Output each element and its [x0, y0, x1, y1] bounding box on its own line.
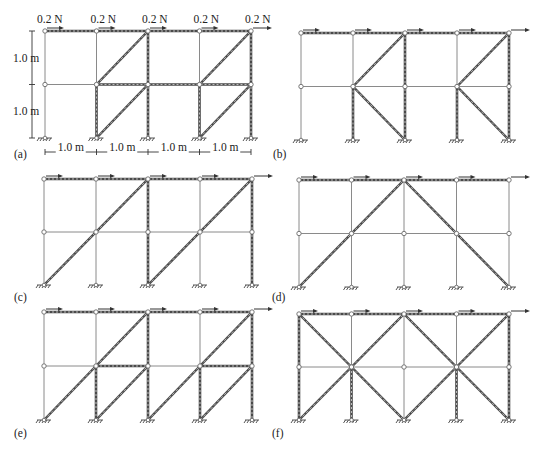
joint-node — [351, 31, 355, 35]
fixed-support-icon — [449, 418, 464, 423]
load-arrow-icon — [253, 26, 272, 30]
load-arrow-icon — [459, 175, 476, 179]
load-arrow-icon — [406, 175, 423, 179]
joint-node — [349, 365, 353, 369]
joint-node — [402, 312, 406, 316]
fixed-support-icon — [244, 418, 259, 423]
joint-node — [297, 178, 301, 182]
joint-node — [349, 231, 353, 235]
joint-node — [297, 365, 301, 369]
joint-node — [299, 84, 303, 88]
joint-node — [351, 84, 355, 88]
joint-node — [507, 178, 511, 182]
joint-node — [146, 230, 150, 234]
joint-node — [42, 177, 46, 181]
joint-node — [455, 31, 459, 35]
load-label: 0.2 N — [194, 13, 220, 25]
joint-node — [507, 231, 511, 235]
panel-c: (c) — [14, 174, 273, 304]
fixed-support-icon — [396, 418, 411, 423]
joint-node — [43, 82, 47, 86]
joint-node — [42, 230, 46, 234]
joint-node — [402, 365, 406, 369]
fixed-support-icon — [36, 418, 51, 423]
joint-node — [43, 29, 47, 33]
joint-node — [94, 29, 98, 33]
load-arrow-icon — [98, 307, 115, 311]
load-arrow-icon — [254, 174, 273, 178]
joint-node — [197, 82, 201, 86]
fixed-support-icon — [243, 136, 258, 141]
load-arrow-icon — [46, 174, 63, 178]
load-arrow-icon — [150, 26, 167, 30]
joint-node — [349, 178, 353, 182]
joint-node — [454, 178, 458, 182]
fixed-support-icon — [140, 418, 155, 423]
fixed-support-icon — [397, 138, 412, 143]
panel-e: (e) — [14, 307, 273, 440]
fixed-support-icon — [449, 138, 464, 143]
joint-node — [507, 31, 511, 35]
joint-node — [297, 312, 301, 316]
dimension-lines: 1.0 m1.0 m1.0 m1.0 m1.0 m1.0 m — [13, 31, 251, 155]
joint-node — [297, 231, 301, 235]
joint-node — [403, 31, 407, 35]
load-arrow-icon — [254, 307, 273, 311]
load-arrow-icon — [46, 307, 63, 311]
joint-node — [94, 364, 98, 368]
load-arrow-icon — [202, 26, 219, 30]
panel-b: (b) — [273, 28, 530, 161]
load-arrow-icon — [355, 28, 372, 32]
joint-node — [349, 312, 353, 316]
load-arrow-icon — [301, 309, 318, 313]
fixed-support-icon — [449, 285, 464, 290]
load-label: 0.2 N — [37, 13, 63, 25]
panel-label: (e) — [14, 427, 27, 440]
fixed-support-icon — [501, 418, 516, 423]
joint-node — [250, 230, 254, 234]
fixed-support-icon — [192, 136, 207, 141]
bay-width-label: 1.0 m — [109, 141, 135, 153]
fixed-support-icon — [293, 138, 308, 143]
load-arrow-icon — [511, 175, 530, 179]
joint-node — [94, 177, 98, 181]
joint-node — [507, 365, 511, 369]
joint-node — [455, 84, 459, 88]
load-arrow-icon — [354, 175, 371, 179]
panel-a: 0.2 N0.2 N0.2 N0.2 N0.2 N1.0 m1.0 m1.0 m… — [13, 13, 272, 161]
fixed-support-icon — [140, 283, 155, 288]
fixed-support-icon — [89, 136, 104, 141]
joint-node — [198, 310, 202, 314]
frame-bracing-diagram: 0.2 N0.2 N0.2 N0.2 N0.2 N1.0 m1.0 m1.0 m… — [0, 0, 537, 455]
joint-node — [507, 312, 511, 316]
fixed-support-icon — [140, 136, 155, 141]
load-arrow-icon — [354, 309, 371, 313]
load-arrow-icon — [202, 307, 219, 311]
fixed-support-icon — [344, 418, 359, 423]
joint-node — [454, 312, 458, 316]
load-arrow-icon — [407, 28, 424, 32]
fixed-support-icon — [36, 283, 51, 288]
load-arrow-icon — [511, 28, 530, 32]
load-arrow-icon — [98, 174, 115, 178]
joint-node — [198, 230, 202, 234]
joint-node — [402, 178, 406, 182]
panel-f: (f) — [272, 309, 530, 440]
joint-node — [507, 84, 511, 88]
joint-node — [454, 365, 458, 369]
fixed-support-icon — [345, 138, 360, 143]
joint-node — [250, 177, 254, 181]
fixed-support-icon — [291, 285, 306, 290]
load-arrow-icon — [47, 26, 64, 30]
load-arrow-icon — [303, 28, 320, 32]
joint-node — [94, 82, 98, 86]
load-arrow-icon — [150, 307, 167, 311]
fixed-support-icon — [396, 285, 411, 290]
joint-node — [249, 29, 253, 33]
joint-node — [249, 82, 253, 86]
bay-width-label: 1.0 m — [161, 141, 187, 153]
load-arrow-icon — [459, 28, 476, 32]
joint-node — [94, 310, 98, 314]
fixed-support-icon — [244, 283, 259, 288]
panel-label: (b) — [273, 148, 287, 161]
